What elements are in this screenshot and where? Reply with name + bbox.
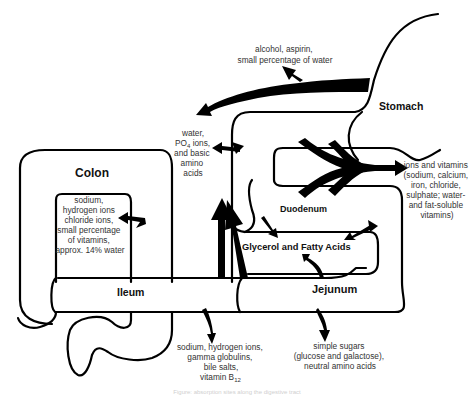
ileum-absorption-text: sodium, hydrogen ions, gamma globulins, … [177, 342, 265, 372]
ileum-coil [68, 312, 172, 375]
ions-vitamins-text: ions and vitamins (sodium, calcium, iron… [404, 160, 471, 220]
colon-absorption-text: sodium, hydrogen ions chloride ions, sma… [55, 195, 124, 255]
duodenum-right-wall [245, 180, 254, 232]
basic-amino-acids-text: and basic amino acids [174, 148, 212, 178]
glycerol-label: Glycerol and Fatty Acids [242, 242, 351, 252]
vitamin-b12-text: vitamin B12 [200, 372, 241, 383]
jejunum-absorption-text: simple sugars (glucose and galactose), n… [294, 341, 387, 371]
stomach-inner-curve [349, 112, 362, 160]
duodenum-label: Duodenum [280, 204, 327, 214]
jejunum-label: Jejunum [312, 283, 357, 295]
ileum-label: Ileum [117, 286, 144, 298]
stomach-lower-wave [283, 148, 440, 160]
stomach-absorption-arrow [196, 78, 370, 116]
stomach-label: Stomach [379, 100, 423, 112]
ileum-absorption-arrow [202, 308, 216, 344]
figure-caption: Figure: absorption sites along the diges… [173, 389, 301, 395]
upward-arrow-right [225, 200, 248, 278]
stomach-small-arrow [282, 66, 303, 82]
digestive-absorption-diagram: Stomach Duodenum Glycerol and Fatty Acid… [0, 0, 474, 399]
ileum-jejunum-junction [237, 278, 242, 312]
glycerol-arrow-left [261, 216, 278, 238]
duodenum-water-text: water, [181, 128, 204, 138]
stomach-absorption-text: alcohol, aspirin, small percentage of wa… [237, 44, 332, 65]
colon-label: Colon [75, 166, 109, 180]
glycerol-arrow-right-head [368, 220, 378, 232]
